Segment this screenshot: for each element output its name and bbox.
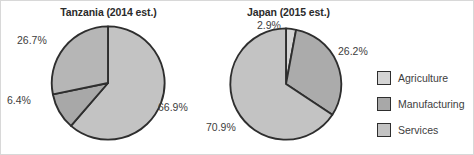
manufacturing-swatch-icon [377,97,391,111]
agriculture-swatch-icon [377,71,391,85]
chart-tanzania-title: Tanzania (2014 est.) [1,6,216,18]
legend-label-agriculture: Agriculture [398,72,448,84]
services-swatch-icon [377,123,391,137]
legend-item-services: Services [377,117,473,143]
chart-japan-title: Japan (2015 est.) [206,6,371,18]
pie-label-tanzania-manufacturing: 26.7% [17,34,47,46]
chart-tanzania-pie [49,24,167,142]
chart-tanzania: Tanzania (2014 est.) 26.7% 6.4% 66.9% [1,1,216,155]
legend-label-manufacturing: Manufacturing [398,98,465,110]
pie-label-tanzania-agriculture: 6.4% [7,94,31,106]
pie-label-japan-agriculture: 2.9% [257,19,281,31]
chart-japan: Japan (2015 est.) 2.9% 26.2% 70.9% [206,1,371,155]
pie-label-japan-services: 70.9% [206,121,236,133]
pie-label-tanzania-services: 66.9% [158,101,188,113]
legend-label-services: Services [398,124,438,136]
chart-legend: Agriculture Manufacturing Services [377,65,473,143]
chart-japan-pie [228,26,344,142]
pie-slice-tanzania-manufacturing [52,26,108,94]
pie-label-japan-manufacturing: 26.2% [338,45,368,57]
legend-item-manufacturing: Manufacturing [377,91,473,117]
pie-chart-figure: Tanzania (2014 est.) 26.7% 6.4% 66.9% Ja… [0,0,474,155]
legend-item-agriculture: Agriculture [377,65,473,91]
